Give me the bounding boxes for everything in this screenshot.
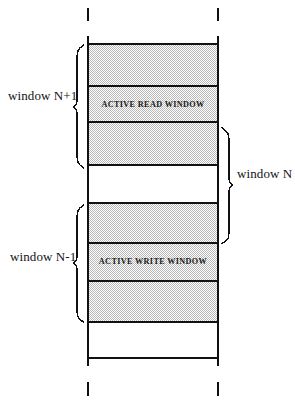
brace-window-n-plus-1-icon xyxy=(73,45,84,168)
window-n-minus-1-label: window N-1 xyxy=(10,249,76,265)
diagram-svg xyxy=(0,0,295,402)
band-fill-8 xyxy=(88,322,218,358)
window-n-plus-1-label: window N+1 xyxy=(8,88,77,104)
band-fill-7 xyxy=(88,281,218,322)
band-fill-4 xyxy=(88,165,218,203)
diagram-canvas: ACTIVE READ WINDOW ACTIVE WRITE WINDOW w… xyxy=(0,0,295,402)
brace-window-n-icon xyxy=(222,128,233,243)
window-n-label: window N xyxy=(237,166,292,182)
band-fill-1 xyxy=(88,44,218,86)
active-read-window-label: ACTIVE READ WINDOW xyxy=(88,100,218,109)
band-fill-5 xyxy=(88,203,218,243)
band-fills xyxy=(88,44,218,358)
band-fill-3 xyxy=(88,122,218,165)
active-write-window-label: ACTIVE WRITE WINDOW xyxy=(88,257,218,266)
